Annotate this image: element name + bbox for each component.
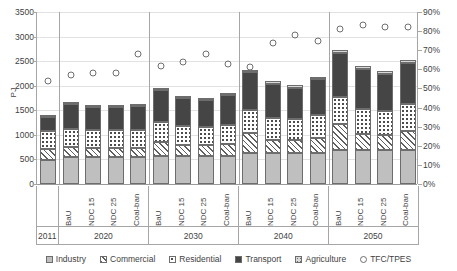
bar-segment-agriculture[interactable] [355, 66, 371, 69]
bar-segment-residential[interactable] [332, 97, 348, 125]
bar-bau-13[interactable] [332, 50, 348, 184]
bar-segment-transport[interactable] [130, 106, 146, 130]
bar-segment-commercial[interactable] [153, 142, 169, 156]
bar-segment-commercial[interactable] [265, 140, 281, 153]
bar-segment-transport[interactable] [355, 69, 371, 109]
bar-segment-commercial[interactable] [108, 148, 124, 158]
bar-coal-ban-8[interactable] [220, 93, 236, 184]
bar-ndc-25-15[interactable] [377, 71, 393, 184]
bar-segment-commercial[interactable] [85, 148, 101, 158]
bar-ndc-15-6[interactable] [175, 96, 191, 184]
marker-tfc-tpes[interactable] [292, 31, 299, 38]
bar-segment-transport[interactable] [175, 98, 191, 126]
bar-segment-commercial[interactable] [310, 138, 326, 153]
bar-segment-transport[interactable] [310, 79, 326, 115]
bar-segment-agriculture[interactable] [63, 102, 79, 104]
bar-segment-transport[interactable] [220, 95, 236, 124]
bar-segment-agriculture[interactable] [377, 71, 393, 74]
bar-segment-transport[interactable] [198, 100, 214, 127]
bar-segment-agriculture[interactable] [85, 105, 101, 107]
bar-ndc-25-11[interactable] [287, 85, 303, 184]
bar-ndc-15-10[interactable] [265, 81, 281, 184]
bar-segment-agriculture[interactable] [40, 115, 56, 117]
bar-segment-commercial[interactable] [332, 124, 348, 150]
bar-segment-agriculture[interactable] [220, 93, 236, 95]
bar-segment-transport[interactable] [153, 90, 169, 121]
bar-segment-commercial[interactable] [242, 133, 258, 152]
bar-segment-transport[interactable] [287, 88, 303, 120]
bar-segment-agriculture[interactable] [265, 81, 281, 83]
bar-segment-commercial[interactable] [377, 135, 393, 150]
bar-segment-transport[interactable] [265, 84, 281, 118]
bar-segment-industry[interactable] [265, 153, 281, 184]
bar-segment-residential[interactable] [40, 131, 56, 148]
marker-tfc-tpes[interactable] [157, 62, 164, 69]
bar-segment-commercial[interactable] [175, 145, 191, 155]
bar-segment-residential[interactable] [242, 110, 258, 134]
legend-item-transport[interactable]: Transport [235, 254, 281, 264]
bar-segment-residential[interactable] [153, 122, 169, 142]
legend-item-tfc-tpes[interactable]: TFC/TPES [360, 254, 411, 264]
legend-item-agriculture[interactable]: Agriculture [295, 254, 346, 264]
bar-segment-commercial[interactable] [63, 147, 79, 157]
bar-ndc-25-3[interactable] [108, 105, 124, 184]
bar-segment-industry[interactable] [377, 150, 393, 184]
bar-segment-commercial[interactable] [40, 149, 56, 160]
bar-segment-agriculture[interactable] [175, 96, 191, 98]
bar-segment-residential[interactable] [220, 125, 236, 145]
marker-tfc-tpes[interactable] [202, 51, 209, 58]
marker-tfc-tpes[interactable] [180, 58, 187, 65]
bar-segment-industry[interactable] [220, 156, 236, 185]
marker-tfc-tpes[interactable] [269, 39, 276, 46]
bar-segment-industry[interactable] [355, 150, 371, 184]
bar-segment-residential[interactable] [265, 118, 281, 140]
marker-tfc-tpes[interactable] [67, 72, 74, 79]
bar-segment-residential[interactable] [287, 119, 303, 140]
bar-segment-residential[interactable] [400, 104, 416, 131]
marker-tfc-tpes[interactable] [112, 70, 119, 77]
marker-tfc-tpes[interactable] [314, 37, 321, 44]
bar-segment-transport[interactable] [85, 107, 101, 130]
bar-segment-agriculture[interactable] [130, 104, 146, 106]
bar-segment-agriculture[interactable] [153, 88, 169, 90]
marker-tfc-tpes[interactable] [90, 70, 97, 77]
marker-tfc-tpes[interactable] [135, 51, 142, 58]
bar-segment-commercial[interactable] [130, 148, 146, 157]
bar-segment-industry[interactable] [85, 157, 101, 184]
bar-segment-industry[interactable] [63, 157, 79, 184]
bar-segment-agriculture[interactable] [287, 85, 303, 87]
bar-ndc-15-14[interactable] [355, 66, 371, 184]
bar-segment-commercial[interactable] [220, 144, 236, 155]
bar-segment-commercial[interactable] [355, 134, 371, 150]
bar-segment-industry[interactable] [400, 150, 416, 184]
bar-coal-ban-16[interactable] [400, 60, 416, 184]
bar-segment-industry[interactable] [175, 156, 191, 185]
bar-segment-transport[interactable] [40, 117, 56, 131]
bar-segment-transport[interactable] [242, 72, 258, 110]
bar-segment-industry[interactable] [153, 156, 169, 185]
bar-segment-transport[interactable] [63, 104, 79, 129]
bar-coal-ban-4[interactable] [130, 104, 146, 184]
bar-segment-agriculture[interactable] [332, 50, 348, 53]
bar-bau-1[interactable] [63, 102, 79, 184]
marker-tfc-tpes[interactable] [359, 22, 366, 29]
bar-ndc-15-2[interactable] [85, 105, 101, 184]
bar-segment-industry[interactable] [287, 153, 303, 184]
bar-segment-industry[interactable] [332, 150, 348, 184]
bar-segment-transport[interactable] [377, 74, 393, 111]
bar-segment-residential[interactable] [377, 111, 393, 135]
bar-2011-0[interactable] [40, 116, 56, 184]
bar-segment-industry[interactable] [108, 157, 124, 184]
bar-segment-residential[interactable] [198, 127, 214, 145]
bar-segment-residential[interactable] [130, 130, 146, 148]
bar-ndc-25-7[interactable] [198, 99, 214, 185]
marker-tfc-tpes[interactable] [382, 24, 389, 31]
bar-coal-ban-12[interactable] [310, 77, 326, 184]
marker-tfc-tpes[interactable] [337, 26, 344, 33]
bar-segment-transport[interactable] [332, 53, 348, 96]
legend-item-commercial[interactable]: Commercial [100, 254, 155, 264]
bar-segment-industry[interactable] [130, 157, 146, 184]
bar-segment-agriculture[interactable] [198, 98, 214, 100]
bar-segment-industry[interactable] [40, 160, 56, 184]
bar-bau-9[interactable] [242, 70, 258, 185]
